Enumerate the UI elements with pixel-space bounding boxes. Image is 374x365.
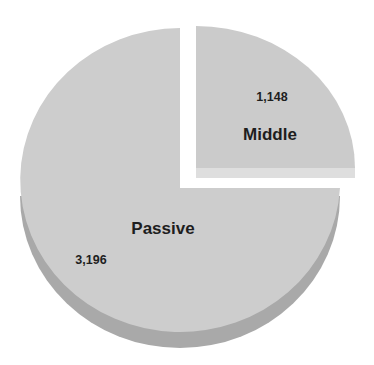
middle-name-label: Middle — [243, 125, 297, 144]
passive-value-label: 3,196 — [75, 253, 106, 267]
middle-slice-rim — [196, 168, 355, 178]
pie-chart: 1,148 Middle Passive 3,196 — [0, 0, 374, 365]
passive-name-label: Passive — [131, 219, 194, 238]
middle-value-label: 1,148 — [256, 90, 287, 104]
